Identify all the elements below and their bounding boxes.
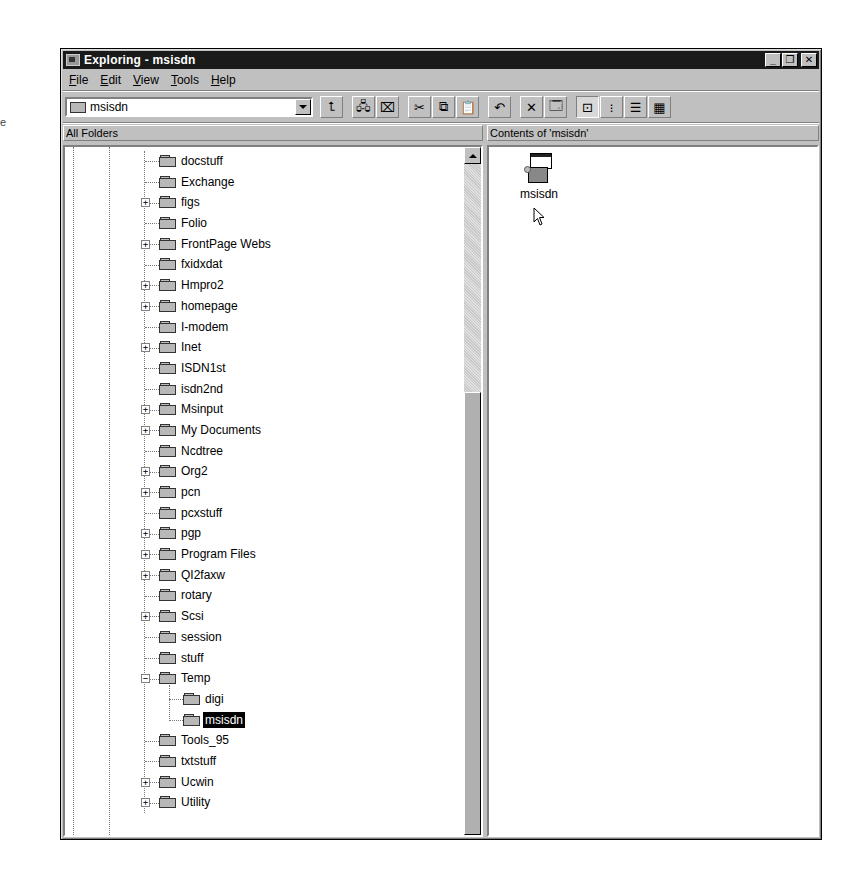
expand-icon[interactable]: + xyxy=(141,612,150,621)
tree-item-label: Msinput xyxy=(179,401,225,417)
disconnect-drive-icon: ⌧ xyxy=(380,100,395,115)
tree-item-ncdtree[interactable]: Ncdtree xyxy=(65,441,461,462)
disconnect-network-drive-button[interactable]: ⌧ xyxy=(376,96,399,118)
expand-icon[interactable]: + xyxy=(141,488,150,497)
properties-button[interactable]: 🗔 xyxy=(544,96,567,118)
folder-icon xyxy=(159,755,177,768)
properties-icon: 🗔 xyxy=(549,96,563,118)
tree-item-qi2faxw[interactable]: +QI2faxw xyxy=(65,565,461,586)
tree-item-scsi[interactable]: +Scsi xyxy=(65,606,461,627)
tree-vertical-scrollbar[interactable] xyxy=(464,147,481,835)
expand-icon[interactable]: + xyxy=(141,281,150,290)
tree-item-frontpage-webs[interactable]: +FrontPage Webs xyxy=(65,234,461,255)
menu-view[interactable]: View xyxy=(127,73,165,87)
file-item-msisdn[interactable]: msisdn xyxy=(504,153,574,201)
tree-item-msisdn[interactable]: msisdn xyxy=(65,710,461,731)
tree-item-homepage[interactable]: +homepage xyxy=(65,296,461,317)
copy-button[interactable]: ⧉ xyxy=(432,96,455,118)
folder-icon xyxy=(159,217,177,230)
maximize-button[interactable]: ❐ xyxy=(782,53,798,67)
tree-item-figs[interactable]: +figs xyxy=(65,192,461,213)
expand-icon[interactable]: + xyxy=(141,405,150,414)
details-button[interactable]: ▦ xyxy=(648,96,671,118)
expand-icon[interactable]: + xyxy=(141,550,150,559)
map-network-drive-button[interactable]: 🖧 xyxy=(352,96,375,118)
address-combobox[interactable]: msisdn xyxy=(65,97,313,117)
tree-item-temp[interactable]: −Temp xyxy=(65,668,461,689)
expand-icon[interactable]: + xyxy=(141,467,150,476)
tree-item-label: Folio xyxy=(179,215,209,231)
menu-bar: FileEditViewToolsHelp xyxy=(63,71,819,89)
tree-item-label: fxidxdat xyxy=(179,256,224,272)
tree-item-digi[interactable]: digi xyxy=(65,689,461,710)
tree-item-pcn[interactable]: +pcn xyxy=(65,482,461,503)
minimize-button[interactable]: _ xyxy=(765,53,781,67)
delete-icon: ✕ xyxy=(526,100,537,115)
tree-item-docstuff[interactable]: docstuff xyxy=(65,151,461,172)
expand-icon[interactable]: + xyxy=(141,798,150,807)
scrollbar-thumb[interactable] xyxy=(464,392,481,835)
address-dropdown-button[interactable] xyxy=(295,99,311,115)
tree-item-org2[interactable]: +Org2 xyxy=(65,461,461,482)
tree-item-tools-95[interactable]: Tools_95 xyxy=(65,730,461,751)
tree-item-rotary[interactable]: rotary xyxy=(65,585,461,606)
tree-item-my-documents[interactable]: +My Documents xyxy=(65,420,461,441)
folder-icon xyxy=(159,734,177,747)
tree-item-program-files[interactable]: +Program Files xyxy=(65,544,461,565)
undo-button[interactable]: ↶ xyxy=(488,96,511,118)
tree-item-inet[interactable]: +Inet xyxy=(65,337,461,358)
tree-item-ucwin[interactable]: +Ucwin xyxy=(65,772,461,793)
menu-tools[interactable]: Tools xyxy=(165,73,205,87)
contents-pane[interactable]: msisdn xyxy=(487,145,819,837)
close-button[interactable]: ✕ xyxy=(801,53,817,67)
tree-item-txtstuff[interactable]: txtstuff xyxy=(65,751,461,772)
explorer-app-icon[interactable] xyxy=(66,54,80,66)
menu-help[interactable]: Help xyxy=(205,73,242,87)
list-button[interactable]: ☰ xyxy=(624,96,647,118)
cut-button[interactable]: ✂ xyxy=(408,96,431,118)
tree-item-hmpro2[interactable]: +Hmpro2 xyxy=(65,275,461,296)
paste-button[interactable]: 📋 xyxy=(456,96,479,118)
tree-item-fxidxdat[interactable]: fxidxdat xyxy=(65,254,461,275)
tree-item-i-modem[interactable]: I-modem xyxy=(65,317,461,338)
title-bar[interactable]: Exploring - msisdn _ ❐ ✕ xyxy=(63,51,819,69)
expand-icon[interactable]: + xyxy=(141,571,150,580)
tree-item-label: digi xyxy=(203,691,226,707)
expand-icon[interactable]: + xyxy=(141,426,150,435)
expand-icon[interactable]: + xyxy=(141,778,150,787)
large-icons-button[interactable]: ⊡ xyxy=(576,96,599,118)
folder-icon xyxy=(159,486,177,499)
folder-icon xyxy=(159,445,177,458)
expand-icon[interactable]: + xyxy=(141,302,150,311)
folder-icon xyxy=(159,279,177,292)
delete-button[interactable]: ✕ xyxy=(520,96,543,118)
menu-file[interactable]: File xyxy=(63,73,94,87)
up-one-level-button[interactable]: ⮤ xyxy=(320,96,343,118)
folder-icon xyxy=(159,548,177,561)
tree-item-msinput[interactable]: +Msinput xyxy=(65,399,461,420)
collapse-icon[interactable]: − xyxy=(141,674,150,683)
small-icons-button[interactable]: ⁝ xyxy=(600,96,623,118)
tree-item-isdn2nd[interactable]: isdn2nd xyxy=(65,379,461,400)
folder-tree-pane[interactable]: docstuffExchange+figsFolio+FrontPage Web… xyxy=(63,145,483,837)
tree-item-folio[interactable]: Folio xyxy=(65,213,461,234)
tree-item-exchange[interactable]: Exchange xyxy=(65,172,461,193)
tree-item-utility[interactable]: +Utility xyxy=(65,792,461,813)
expand-icon[interactable]: + xyxy=(141,240,150,249)
tree-connector xyxy=(145,368,159,369)
tree-item-label: FrontPage Webs xyxy=(179,236,273,252)
tree-item-isdn1st[interactable]: ISDN1st xyxy=(65,358,461,379)
scroll-up-button[interactable] xyxy=(464,147,481,164)
tree-item-pgp[interactable]: +pgp xyxy=(65,523,461,544)
tree-connector xyxy=(145,658,159,659)
menu-edit[interactable]: Edit xyxy=(94,73,127,87)
folder-icon xyxy=(159,569,177,582)
chevron-down-icon xyxy=(299,105,307,109)
tree-item-session[interactable]: session xyxy=(65,627,461,648)
expand-icon[interactable]: + xyxy=(141,198,150,207)
tree-item-pcxstuff[interactable]: pcxstuff xyxy=(65,503,461,524)
tree-item-stuff[interactable]: stuff xyxy=(65,648,461,669)
expand-icon[interactable]: + xyxy=(141,343,150,352)
map-drive-icon: 🖧 xyxy=(356,96,371,118)
expand-icon[interactable]: + xyxy=(141,529,150,538)
